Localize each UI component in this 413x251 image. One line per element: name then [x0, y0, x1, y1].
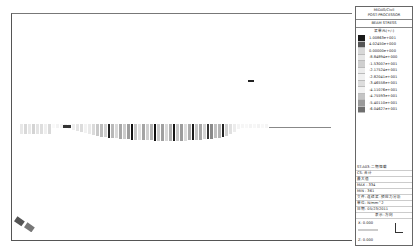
scale-value: -5.40110e+001: [369, 101, 397, 106]
y-coord-bar: [358, 229, 378, 231]
scale-swatch: [358, 107, 365, 114]
scale-value: -6.04627e+001: [369, 107, 397, 112]
color-scale: 1.00863e+0014.02450e+0000.00000e+000-8.8…: [358, 35, 412, 113]
result-type: BEAM STRESS: [356, 20, 412, 28]
scale-value: -4.11076e+001: [369, 88, 397, 93]
axis-indicator: X: 0.000 Z: 0.000: [356, 219, 412, 244]
scale-value: -1.53007e+001: [369, 62, 397, 67]
scale-value: -4.75593e+001: [369, 94, 397, 99]
legend-title: MIDAS/Civil POST-PROCESSOR: [356, 7, 412, 20]
axis-x-icon: [395, 232, 403, 233]
view-orientation-icon[interactable]: [14, 216, 38, 232]
z-coord: Z: 0.000: [358, 238, 373, 243]
legend-info: ST:A03:二期恒载 CS: 合计 最大值 MAX : 334 MIN : 3…: [356, 165, 412, 219]
support-icon: [63, 125, 71, 128]
stress-bar: [265, 124, 269, 128]
node-marker: [248, 80, 254, 82]
x-coord: X: 0.000: [358, 221, 373, 226]
scale-value: 0.00000e+000: [369, 49, 396, 54]
scale-value: -3.46558e+001: [369, 81, 397, 86]
scale-value: -8.84894e+000: [369, 55, 397, 60]
scale-value: 1.00863e+001: [369, 36, 396, 41]
module-name: POST-PROCESSOR: [356, 13, 412, 18]
scale-value: -2.82041e+001: [369, 75, 397, 80]
scale-value: 4.02450e+000: [369, 42, 396, 47]
legend-panel: MIDAS/Civil POST-PROCESSOR BEAM STRESS 梁…: [355, 6, 413, 246]
scale-value: -2.17524e+001: [369, 68, 397, 73]
beam-stress-diagram: [20, 124, 269, 142]
scale-row: -6.04627e+001: [358, 107, 412, 114]
component-label: 梁单元(+/-): [356, 28, 412, 35]
